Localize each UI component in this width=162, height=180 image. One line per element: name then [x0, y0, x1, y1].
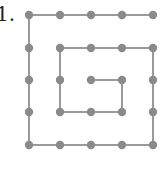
grid-dot [56, 108, 64, 116]
grid-dot [25, 76, 33, 84]
grid-dot [25, 141, 33, 149]
grid-dot [87, 76, 95, 84]
grid-dot [118, 44, 126, 52]
grid-dot [149, 108, 157, 116]
grid-dot [149, 11, 157, 19]
grid-dot [118, 141, 126, 149]
grid-dot [56, 44, 64, 52]
grid-dots [25, 11, 157, 149]
grid-dot [87, 141, 95, 149]
grid-dot [87, 11, 95, 19]
grid-dot [118, 108, 126, 116]
grid-dot [25, 11, 33, 19]
grid-dot [25, 44, 33, 52]
grid-dot [56, 141, 64, 149]
grid-dot [56, 11, 64, 19]
grid-dot [118, 11, 126, 19]
grid-dot [118, 76, 126, 84]
grid-dot [149, 44, 157, 52]
grid-dot [25, 108, 33, 116]
spiral-dot-diagram [0, 0, 162, 180]
grid-dot [87, 108, 95, 116]
grid-dot [149, 141, 157, 149]
grid-dot [87, 44, 95, 52]
grid-dot [56, 76, 64, 84]
grid-dot [149, 76, 157, 84]
